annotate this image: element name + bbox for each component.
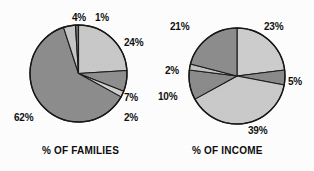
families-pie-svg [28,23,129,124]
families-pie-label-4: 4% [72,13,86,23]
pie-charts-figure: 24%7%2%62%4%1%23%5%39%10%2%21%% OF FAMIL… [0,0,314,171]
income-pie-slice-23pct [237,28,285,76]
families-pie-label-5: 1% [95,13,109,23]
income-pie-label-4: 2% [165,66,179,76]
income-caption: % OF INCOME [192,146,263,156]
income-pie-label-0: 23% [264,22,283,32]
income-pie-label-3: 10% [158,92,177,102]
families-caption: % OF FAMILIES [42,146,119,156]
families-pie-label-0: 24% [124,38,143,48]
families-pie-label-3: 62% [14,113,33,123]
families-pie-label-1: 7% [124,93,138,103]
families-pie-label-2: 2% [124,113,138,123]
income-pie-svg [187,26,287,126]
income-pie-label-2: 39% [248,126,267,136]
income-pie-label-5: 21% [170,22,189,32]
income-pie-label-1: 5% [288,77,302,87]
